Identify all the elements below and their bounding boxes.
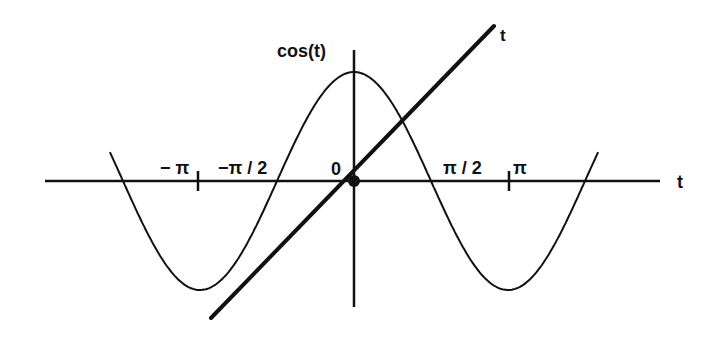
origin-label: 0: [331, 160, 341, 178]
t-line-label: t: [500, 27, 506, 44]
tick-label-pi-half: π / 2: [443, 159, 482, 177]
tick-label-pi: π: [513, 159, 527, 177]
origin-dot: [348, 175, 360, 187]
tick-label-neg-pi: − π: [160, 159, 189, 177]
cos-axis-label: cos(t): [277, 42, 326, 60]
diagram-canvas: [0, 0, 714, 338]
t-axis-label: t: [677, 173, 683, 191]
tick-label-neg-pi-half: −π / 2: [218, 159, 267, 177]
